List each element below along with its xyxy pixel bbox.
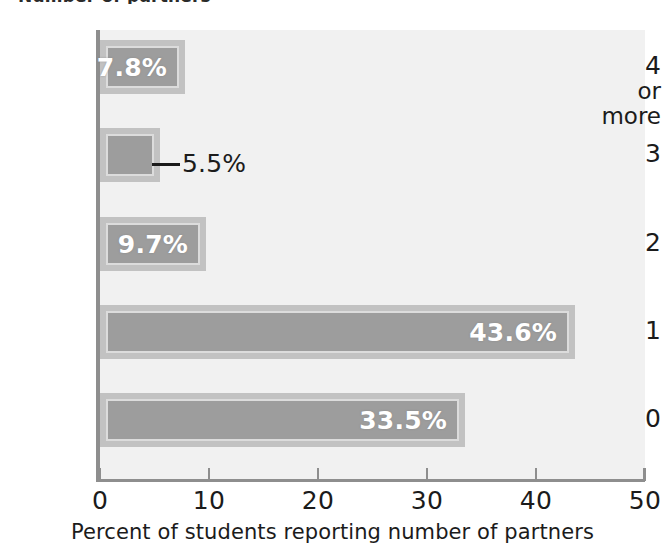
y-category-label-1: 1 [573, 317, 665, 344]
bar-label-1: 43.6% [469, 318, 557, 347]
y-category-label-4-or-more: 4 or more [573, 52, 665, 129]
y-category-label-2: 2 [573, 229, 665, 256]
y-category-line2: or more [573, 79, 661, 129]
x-tick-50 [643, 468, 646, 481]
bar-3[interactable] [100, 128, 160, 182]
y-category-label-3: 3 [573, 140, 665, 167]
bar-label-0: 33.5% [359, 406, 447, 435]
x-tick-label-40: 40 [520, 486, 552, 515]
bar-chart-figure: Number of partners 0 10 20 30 40 50 Perc… [0, 0, 665, 556]
x-tick-20 [317, 468, 319, 479]
x-tick-10 [208, 468, 210, 479]
y-category-line1: 0 [645, 404, 661, 433]
y-category-line1: 1 [645, 316, 661, 345]
y-category-line1: 3 [645, 139, 661, 168]
x-tick-label-20: 20 [302, 486, 334, 515]
bar-label-3: 5.5% [182, 149, 246, 178]
x-tick-label-10: 10 [193, 486, 225, 515]
chart-title-cropped: Number of partners [18, 0, 218, 4]
x-axis-title: Percent of students reporting number of … [0, 520, 665, 544]
y-category-line1: 2 [645, 228, 661, 257]
x-axis-line [96, 479, 645, 482]
x-tick-label-50: 50 [629, 486, 661, 515]
bar-label-2: 9.7% [118, 230, 188, 259]
y-category-label-0: 0 [573, 405, 665, 432]
bar-2[interactable]: 9.7% [100, 217, 206, 271]
x-tick-label-0: 0 [92, 486, 108, 515]
bar-1[interactable]: 43.6% [100, 305, 575, 359]
bar-0[interactable]: 33.5% [100, 393, 465, 447]
x-tick-40 [535, 468, 537, 479]
bar-4-or-more[interactable]: 7.8% [100, 40, 185, 94]
bar-3-leader-line [152, 163, 180, 166]
x-tick-30 [426, 468, 428, 479]
bar-label-4-or-more: 7.8% [97, 53, 167, 82]
y-category-line1: 4 [645, 51, 661, 80]
x-tick-0 [98, 468, 101, 481]
x-tick-label-30: 30 [411, 486, 443, 515]
